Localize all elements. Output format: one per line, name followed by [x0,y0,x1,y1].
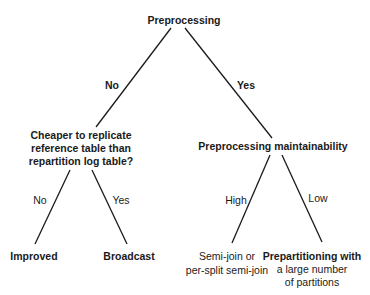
cheaper-node-line-3: repartition log table? [29,155,133,168]
edge-cheaper-no [35,170,70,244]
edge-label-maint-low: Low [308,192,327,205]
root-node: Preprocessing [148,14,221,27]
edge-cheaper-yes [92,170,127,244]
leaf-prepartitioning-line-3: of partitions [285,276,339,289]
leaf-semijoin-line-1: Semi-join or [199,250,255,263]
leaf-improved: Improved [10,250,57,263]
edge-label-maint-high: High [225,194,247,207]
edge-root-no [96,28,171,127]
leaf-prepartitioning-line-2: a large number [277,263,348,276]
edge-label-root-yes: Yes [237,79,255,92]
edge-root-yes [185,28,272,138]
maintainability-node: Preprocessing maintainability [198,140,347,153]
cheaper-node-line-1: Cheaper to replicate [31,129,132,142]
leaf-prepartitioning-line-1: Prepartitioning with [263,250,362,263]
edge-label-cheaper-no: No [33,194,46,207]
cheaper-node-line-2: reference table than [31,142,131,155]
edge-label-cheaper-yes: Yes [112,194,129,207]
leaf-semijoin-line-2: per-split semi-join [186,264,268,277]
leaf-broadcast: Broadcast [103,250,154,263]
edge-label-root-no: No [105,79,119,92]
